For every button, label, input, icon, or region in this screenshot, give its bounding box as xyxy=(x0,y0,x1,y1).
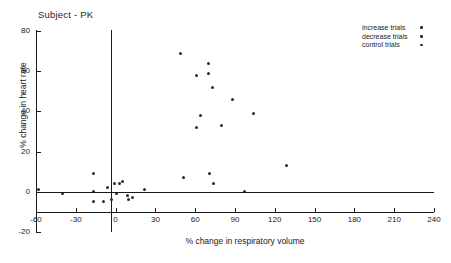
y-axis-label: % change in heart rate xyxy=(18,35,28,175)
legend-marker-dot-icon xyxy=(420,35,423,38)
legend-label: decrease trials xyxy=(362,33,414,42)
data-point xyxy=(231,98,234,101)
y-axis-line xyxy=(36,30,37,233)
page-title: Subject - PK xyxy=(38,9,93,20)
data-point xyxy=(212,182,215,185)
x-tick-120 xyxy=(275,208,276,212)
data-point xyxy=(208,172,211,175)
x-tick-label--60: -60 xyxy=(21,215,51,224)
y-tick-60 xyxy=(37,71,41,72)
legend-marker-dot-icon xyxy=(420,44,423,47)
legend-item-increase: increase trials xyxy=(362,24,423,33)
y-tick-20 xyxy=(37,152,41,153)
data-point xyxy=(182,176,185,179)
x-tick-label-240: 240 xyxy=(419,215,449,224)
x-tick-label-60: 60 xyxy=(180,215,210,224)
data-point xyxy=(92,172,95,175)
legend-item-decrease: decrease trials xyxy=(362,33,423,42)
data-point xyxy=(121,180,124,183)
x-tick-label-150: 150 xyxy=(300,215,330,224)
x-tick-180 xyxy=(354,208,355,212)
data-point xyxy=(285,164,288,167)
x-tick-label-30: 30 xyxy=(140,215,170,224)
data-point xyxy=(207,62,210,65)
data-point xyxy=(211,86,214,89)
x-tick-60 xyxy=(195,208,196,212)
data-point xyxy=(199,114,202,117)
legend-item-control: control trials xyxy=(362,41,423,50)
data-point xyxy=(106,186,109,189)
zero-horizontal-reference-line xyxy=(36,192,434,193)
legend-label: control trials xyxy=(362,41,414,50)
legend-marker-dot-icon xyxy=(420,26,423,29)
y-tick-label--20: -20 xyxy=(4,227,30,236)
data-point xyxy=(127,198,130,201)
x-tick-210 xyxy=(394,208,395,212)
x-tick-label-0: 0 xyxy=(101,215,131,224)
x-axis-label: % change in respiratory volume xyxy=(120,236,370,246)
x-tick-label-120: 120 xyxy=(260,215,290,224)
x-tick-30 xyxy=(155,208,156,212)
data-point xyxy=(92,200,95,203)
y-tick-label-80: 80 xyxy=(4,26,30,35)
data-point xyxy=(207,72,210,75)
x-tick-label-180: 180 xyxy=(339,215,369,224)
scatter-plot-figure: Subject - PK -20020406080 -60-3003060901… xyxy=(0,0,451,263)
x-axis-line xyxy=(36,212,434,213)
x-tick-label--30: -30 xyxy=(61,215,91,224)
y-tick--20 xyxy=(37,232,41,233)
x-tick-label-210: 210 xyxy=(379,215,409,224)
x-tick-0 xyxy=(116,208,117,212)
data-point xyxy=(126,194,129,197)
data-point xyxy=(131,196,134,199)
data-point xyxy=(113,182,116,185)
x-tick-150 xyxy=(315,208,316,212)
data-point xyxy=(220,124,223,127)
y-tick-40 xyxy=(37,111,41,112)
x-tick-90 xyxy=(235,208,236,212)
chart-legend: increase trialsdecrease trialscontrol tr… xyxy=(362,24,423,50)
zero-vertical-reference-line xyxy=(111,30,112,232)
data-point xyxy=(110,198,113,201)
data-point xyxy=(252,112,255,115)
data-point xyxy=(179,52,182,55)
x-tick-240 xyxy=(434,208,435,212)
x-tick--60 xyxy=(36,208,37,212)
data-point xyxy=(102,200,105,203)
x-tick--30 xyxy=(76,208,77,212)
y-tick-label-0: 0 xyxy=(4,187,30,196)
legend-label: increase trials xyxy=(362,24,414,33)
data-point xyxy=(195,74,198,77)
y-tick-80 xyxy=(37,31,41,32)
data-point xyxy=(195,126,198,129)
x-tick-label-90: 90 xyxy=(220,215,250,224)
